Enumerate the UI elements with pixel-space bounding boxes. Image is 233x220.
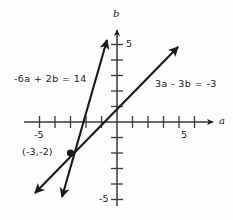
intersection-point-marker bbox=[67, 149, 74, 156]
x-axis bbox=[24, 116, 213, 128]
equation-label-left: -6a + 2b = 14 bbox=[14, 74, 87, 84]
graph-canvas bbox=[0, 0, 233, 220]
intersection-point-label: (-3,-2) bbox=[22, 147, 53, 157]
y-axis bbox=[111, 30, 123, 206]
line-minus6a-plus-2b-equals-14 bbox=[62, 40, 107, 197]
line-3a-minus-3b-equals-minus3 bbox=[35, 47, 178, 193]
x-axis-label: a bbox=[219, 116, 225, 126]
x-tick-label-5: 5 bbox=[181, 130, 187, 140]
coordinate-graph-figure: b a 5 -5 -5 5 -6a + 2b = 14 3a - 3b = -3… bbox=[0, 0, 233, 220]
y-tick-label-minus5: -5 bbox=[99, 194, 108, 204]
y-tick-label-5: 5 bbox=[126, 39, 132, 49]
equation-label-right: 3a - 3b = -3 bbox=[155, 79, 217, 89]
y-axis-label: b bbox=[113, 9, 119, 19]
x-tick-label-minus5: -5 bbox=[34, 130, 43, 140]
